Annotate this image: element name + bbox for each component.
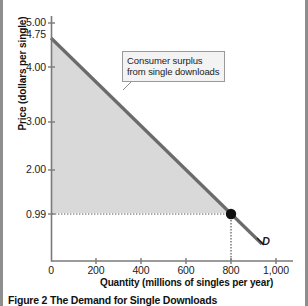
x-tick-0: 0 bbox=[29, 264, 73, 276]
figure-caption: Figure 2 The Demand for Single Downloads bbox=[8, 294, 217, 306]
y-tick-label: 5.00 bbox=[26, 17, 46, 28]
chart-canvas bbox=[0, 0, 308, 306]
y-tick-label: 3.00 bbox=[26, 116, 46, 127]
y-tick-label: 2.00 bbox=[26, 164, 46, 175]
consumer-surplus-annotation: Consumer surplus from single downloads bbox=[122, 51, 225, 82]
x-axis-title: Quantity (millions of singles per year) bbox=[100, 277, 273, 288]
demand-curve-label: D bbox=[262, 235, 270, 247]
x-tick-1000: 1,000 bbox=[254, 264, 298, 276]
y-tick-099: 0.99 bbox=[12, 209, 46, 220]
x-tick-200: 200 bbox=[74, 264, 118, 276]
y-tick-label: 0.99 bbox=[26, 209, 46, 220]
equilibrium-point-marker bbox=[226, 209, 236, 219]
y-tick-200: 2.00 bbox=[12, 164, 46, 175]
y-axis-title: Price (dollars per single) bbox=[17, 4, 28, 144]
figure-demand-single-downloads: 5.00 4.75 4.00 3.00 2.00 0.99 0 200 400 … bbox=[0, 0, 308, 306]
x-tick-600: 600 bbox=[164, 264, 208, 276]
y-tick-label: 4.00 bbox=[26, 62, 46, 73]
y-tick-label: 4.75 bbox=[26, 29, 46, 40]
x-tick-400: 400 bbox=[119, 264, 163, 276]
x-tick-800: 800 bbox=[209, 264, 253, 276]
